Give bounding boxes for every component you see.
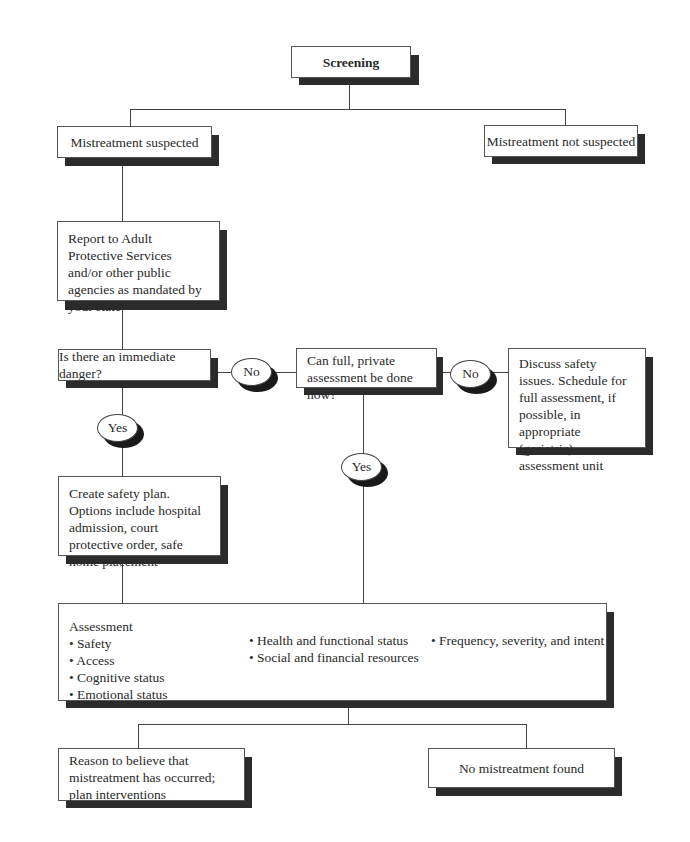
connector-line (138, 724, 139, 748)
no-decision-oval: No (231, 358, 272, 386)
reason-to-believe-box: Reason to believe that mistreatment has … (58, 748, 245, 801)
screening-box: Screening (291, 46, 411, 78)
assessment-item: Emotional status (69, 686, 167, 703)
assessment-item: Health and functional status (249, 632, 419, 649)
yes-label: Yes (108, 420, 128, 436)
assessment-item: Frequency, severity, and intent (431, 632, 604, 649)
connector-line (363, 395, 364, 603)
yes-label: Yes (352, 459, 372, 475)
assessment-title: Assessment (69, 618, 167, 635)
assessment-list-col1: Safety Access Cognitive status Emotional… (69, 635, 167, 703)
assessment-list-col2: Health and functional status Social and … (249, 632, 419, 666)
safety-plan-box: Create safety plan. Options include hosp… (58, 476, 221, 556)
connector-line (122, 166, 123, 221)
assessment-item: Access (69, 652, 167, 669)
assessment-item: Cognitive status (69, 669, 167, 686)
connector-line (526, 724, 527, 748)
immediate-danger-box: Is there an immediate danger? (58, 349, 211, 381)
connector-line (348, 708, 349, 724)
assessment-item: Safety (69, 635, 167, 652)
mistreatment-suspected-box: Mistreatment suspected (57, 126, 212, 158)
no-label: No (243, 364, 260, 380)
connector-line (130, 109, 566, 110)
no-decision-oval: No (450, 360, 491, 388)
no-label: No (462, 366, 479, 382)
yes-decision-oval: Yes (97, 414, 138, 442)
discuss-safety-box: Discuss safety issues. Schedule for full… (508, 348, 646, 448)
assessment-list-col3: Frequency, severity, and intent (431, 632, 604, 649)
connector-line (349, 85, 350, 109)
mistreatment-not-suspected-box: Mistreatment not suspected (484, 125, 638, 157)
connector-line (565, 109, 566, 125)
assessment-item: Social and financial resources (249, 649, 419, 666)
full-assessment-question-box: Can full, private assessment be done now… (296, 348, 437, 388)
yes-decision-oval: Yes (341, 453, 382, 481)
connector-line (122, 310, 123, 349)
connector-line (138, 724, 527, 725)
assessment-box: Assessment Safety Access Cognitive statu… (58, 603, 607, 701)
connector-line (130, 109, 131, 126)
report-aps-box: Report to Adult Protective Services and/… (57, 221, 220, 301)
no-mistreatment-found-box: No mistreatment found (428, 748, 615, 788)
